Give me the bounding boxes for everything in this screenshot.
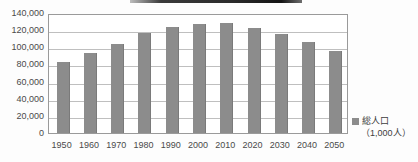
x-axis: 1950196019701980199020002010202020302040… xyxy=(48,140,348,154)
legend-swatch-icon xyxy=(352,118,359,125)
y-axis-tick-label: 60,000 xyxy=(0,78,44,87)
x-axis-tick-label: 1990 xyxy=(157,140,184,151)
bar xyxy=(302,42,315,133)
x-axis-tick-label: 2020 xyxy=(239,140,266,151)
cropped-header-strip xyxy=(130,0,302,3)
legend: 総人口 （1,000人） xyxy=(352,116,418,139)
y-axis-tick-label: 40,000 xyxy=(0,95,44,104)
x-axis-tick-label: 1980 xyxy=(130,140,157,151)
bar xyxy=(193,24,206,133)
x-axis-tick-label: 2010 xyxy=(212,140,239,151)
bar xyxy=(166,27,179,133)
bar xyxy=(220,23,233,133)
bar xyxy=(248,28,261,133)
y-axis-tick-label: 120,000 xyxy=(0,26,44,35)
x-axis-tick-label: 2030 xyxy=(266,140,293,151)
y-axis-tick-label: 20,000 xyxy=(0,112,44,121)
y-axis: 140,000120,000100,00080,00060,00040,0002… xyxy=(0,14,44,134)
bar xyxy=(84,53,97,133)
bar xyxy=(329,51,342,133)
x-axis-tick-label: 1950 xyxy=(48,140,75,151)
chart-screenshot: 140,000120,000100,00080,00060,00040,0002… xyxy=(0,0,418,162)
y-axis-tick-label: 140,000 xyxy=(0,9,44,18)
x-axis-tick-label: 1960 xyxy=(75,140,102,151)
x-axis-tick-label: 2040 xyxy=(293,140,320,151)
bar-series-total-population xyxy=(49,15,347,133)
legend-item-total-population: 総人口 xyxy=(352,116,418,126)
y-axis-tick-label: 0 xyxy=(0,129,44,138)
y-axis-tick-label: 100,000 xyxy=(0,43,44,52)
plot-area xyxy=(48,14,348,134)
x-axis-tick-label: 1970 xyxy=(103,140,130,151)
y-axis-tick-label: 80,000 xyxy=(0,60,44,69)
bar xyxy=(57,62,70,133)
x-axis-tick-label: 2000 xyxy=(184,140,211,151)
legend-unit-label: （1,000人） xyxy=(361,128,418,139)
bar xyxy=(111,44,124,133)
x-axis-tick-label: 2050 xyxy=(321,140,348,151)
legend-label: 総人口 xyxy=(362,116,389,126)
bar xyxy=(275,34,288,133)
bar xyxy=(138,33,151,133)
